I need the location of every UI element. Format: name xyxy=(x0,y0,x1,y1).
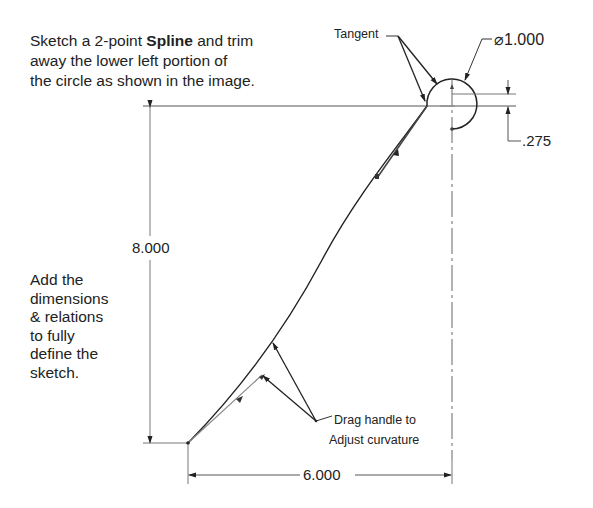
spline-keyword: Spline xyxy=(146,32,193,49)
drag-leader-2 xyxy=(263,376,316,421)
tangent-leader-2 xyxy=(398,36,425,101)
diameter-dimension[interactable]: ⌀1.000 xyxy=(493,30,545,49)
spline-handle-upper xyxy=(377,106,427,178)
instruction-top: Sketch a 2-point Spline and trim away th… xyxy=(30,31,310,91)
drag-handle-label: Drag handle to Adjust curvature xyxy=(334,410,419,450)
height-dimension[interactable]: 8.000 xyxy=(131,239,171,256)
instruction-left: Add the dimensions & relations to fully … xyxy=(30,271,140,382)
width-dimension[interactable]: 6.000 xyxy=(302,466,342,483)
drag-leader-1 xyxy=(273,343,316,421)
spline-handle-lower xyxy=(188,375,262,443)
tangent-leader-1 xyxy=(398,36,437,84)
diameter-symbol: ⌀ xyxy=(494,31,504,48)
diameter-leader xyxy=(465,39,492,80)
offset-dimension[interactable]: .275 xyxy=(521,132,552,149)
tangent-label: Tangent xyxy=(334,27,378,41)
